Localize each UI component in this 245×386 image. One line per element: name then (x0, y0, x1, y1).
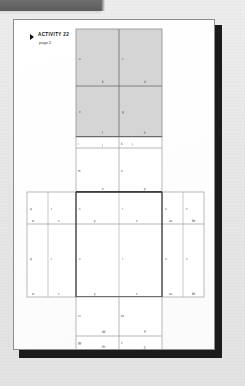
cell-label: bb (192, 219, 196, 223)
cell-label: dd (102, 330, 106, 334)
worksheet-page: ACTIVITY 22 page 2 a c b d e g (13, 19, 215, 350)
upper-middle-panel: i j k l m o n p (76, 137, 162, 192)
top-dark-bar-fade (101, 0, 105, 11)
cell-label: r (51, 257, 52, 261)
net-diagram: a c b d e g f h i j k l m o n (14, 20, 214, 349)
cell-label: r (51, 207, 52, 211)
top-dark-bar (0, 0, 101, 11)
net-diagram-svg: a c b d e g f h i j k l m o n (14, 20, 215, 350)
cell-label: hh (102, 345, 106, 349)
wide-middle-band: q r s t u v w x y z aa bb q r s t u v (27, 192, 204, 297)
top-bar-underline (0, 11, 101, 14)
cell-label: bb (192, 292, 196, 296)
cell-label: ee (121, 314, 125, 318)
cell-label: jj (143, 345, 146, 349)
lower-panel: cc ee dd ff gg ii hh jj (76, 297, 162, 350)
cell-label: ff (144, 330, 146, 334)
cell-label: gg (78, 341, 82, 345)
cell-label: aa (169, 219, 173, 223)
top-shaded-panel: a c b d e g f h (76, 29, 162, 137)
cell-label: aa (169, 292, 173, 296)
wide-band-outline (27, 192, 204, 297)
